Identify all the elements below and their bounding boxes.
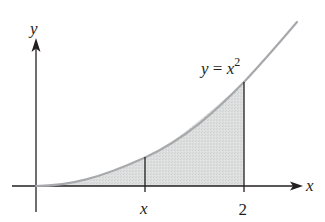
tick-label-2: 2 bbox=[239, 200, 248, 219]
function-label-exponent: 2 bbox=[234, 55, 240, 69]
function-label-lhs: y bbox=[199, 59, 209, 78]
area-under-curve-diagram: y x x 2 y = x2 bbox=[0, 0, 325, 222]
x-axis-label: x bbox=[305, 176, 314, 195]
y-axis-label: y bbox=[28, 19, 38, 38]
function-label: y = x2 bbox=[199, 55, 240, 78]
shaded-area bbox=[36, 82, 244, 186]
function-label-eq: = bbox=[209, 59, 227, 78]
tick-label-x: x bbox=[139, 199, 148, 218]
